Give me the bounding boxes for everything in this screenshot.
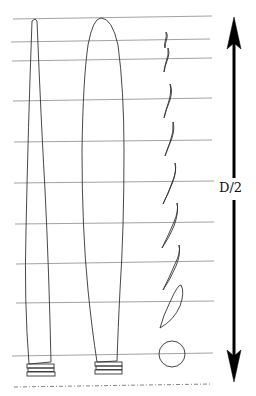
station-line — [14, 140, 212, 142]
wide-blade-root-ring — [95, 370, 122, 374]
station-line — [14, 181, 214, 183]
station-line — [16, 261, 214, 264]
station-line — [12, 353, 213, 356]
airfoil-section — [165, 122, 174, 156]
wide-blade-root-ring — [95, 362, 122, 366]
wide-blade-root-ring — [96, 366, 122, 370]
station-line — [13, 98, 212, 101]
narrow-blade-root-ring — [28, 368, 54, 372]
radius-dimension-arrow — [227, 17, 241, 382]
blade-diagram — [0, 0, 256, 396]
station-line — [15, 222, 214, 224]
airfoil-section — [160, 285, 183, 328]
airfoil-section — [164, 84, 172, 118]
hub-axis-dashed-line — [14, 384, 212, 387]
radius-label: D/2 — [219, 180, 242, 196]
narrow-blade-root-ring — [27, 364, 54, 368]
station-line — [13, 16, 212, 19]
narrow-blade — [25, 19, 55, 376]
airfoil-section — [164, 48, 169, 72]
station-line — [12, 58, 212, 61]
station-line — [11, 39, 210, 42]
blade-sections — [159, 32, 185, 367]
airfoil-section — [163, 245, 180, 290]
station-line — [16, 301, 214, 303]
station-lines — [11, 16, 214, 356]
airfoil-section — [162, 203, 178, 248]
narrow-blade-root-ring — [27, 372, 55, 376]
airfoil-section — [163, 163, 176, 204]
wide-blade — [82, 18, 124, 374]
